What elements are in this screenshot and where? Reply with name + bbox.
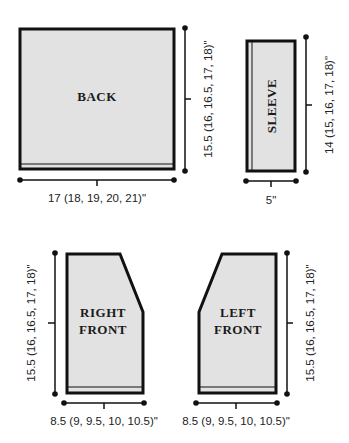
back-label: BACK (77, 89, 117, 104)
left-front-height-dimension: 15.5 (16, 16.5, 17, 18)" (284, 250, 316, 397)
left-front-label-line1: LEFT (220, 305, 256, 320)
sleeve-piece: SLEEVE (247, 41, 295, 171)
right-front-width-label: 8.5 (9, 9.5, 10, 10.5)" (50, 415, 158, 427)
left-front-piece: LEFT FRONT (199, 254, 276, 393)
right-front-height-label: 15.5 (16, 16.5, 17, 18)" (25, 264, 37, 381)
left-front-label-line2: FRONT (214, 322, 262, 337)
schematic-canvas: BACK 15.5 (16, 16.5, 17, 18)" 17 (18, 19… (0, 0, 349, 443)
sleeve-height-dimension: 14 (15, 16, 17, 18)" (303, 34, 335, 175)
right-front-piece: RIGHT FRONT (67, 254, 143, 393)
sleeve-width-label: 5" (266, 194, 276, 206)
left-front-width-label: 8.5 (9, 9.5, 10, 10.5)" (182, 415, 290, 427)
back-piece: BACK (20, 29, 174, 169)
left-front-width-dimension: 8.5 (9, 9.5, 10, 10.5)" (182, 400, 290, 427)
right-front-label-line1: RIGHT (80, 305, 126, 320)
sleeve-width-dimension: 5" (243, 178, 299, 206)
right-front-width-dimension: 8.5 (9, 9.5, 10, 10.5)" (50, 400, 158, 427)
back-height-label: 15.5 (16, 16.5, 17, 18)" (202, 40, 214, 157)
left-front-height-label: 15.5 (16, 16.5, 17, 18)" (304, 264, 316, 381)
right-front-height-dimension: 15.5 (16, 16.5, 17, 18)" (25, 250, 58, 397)
sleeve-height-label: 14 (15, 16, 17, 18)" (323, 56, 335, 154)
back-width-label: 17 (18, 19, 20, 21)" (48, 192, 146, 204)
right-front-label-line2: FRONT (79, 322, 127, 337)
back-height-dimension: 15.5 (16, 16.5, 17, 18)" (182, 25, 214, 174)
sleeve-label: SLEEVE (264, 79, 279, 133)
back-width-dimension: 17 (18, 19, 20, 21)" (17, 177, 177, 204)
